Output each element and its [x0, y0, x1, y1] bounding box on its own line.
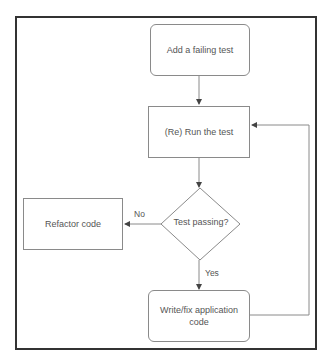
node-label: Add a failing test — [167, 44, 234, 56]
node-refactor-code: Refactor code — [23, 198, 123, 250]
edge-label-no: No — [134, 209, 145, 219]
node-add-failing-test: Add a failing test — [150, 24, 250, 76]
node-label-line1: Write/fix application — [160, 304, 238, 316]
node-write-fix-code: Write/fix application code — [148, 290, 250, 342]
decision-label: Test passing? — [161, 217, 241, 227]
node-run-test: (Re) Run the test — [148, 106, 250, 158]
node-label: Refactor code — [45, 218, 101, 230]
node-label-line2: code — [189, 316, 209, 328]
node-label: (Re) Run the test — [165, 126, 234, 138]
edge-label-yes: Yes — [205, 268, 219, 278]
